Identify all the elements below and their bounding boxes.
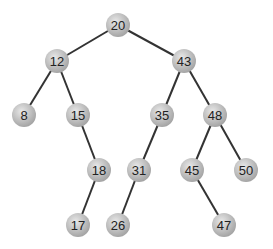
node-label: 8 <box>20 108 27 123</box>
nodes-layer: 201243815354818314550172647 <box>12 13 258 237</box>
tree-node-26: 26 <box>106 213 130 237</box>
node-label: 31 <box>132 163 146 178</box>
tree-node-15: 15 <box>66 103 90 127</box>
node-label: 18 <box>92 163 106 178</box>
tree-node-43: 43 <box>172 49 196 73</box>
tree-node-50: 50 <box>234 158 258 182</box>
node-label: 35 <box>155 108 169 123</box>
tree-node-35: 35 <box>150 103 174 127</box>
binary-tree-diagram: 201243815354818314550172647 <box>0 0 273 249</box>
node-label: 20 <box>111 18 125 33</box>
tree-node-45: 45 <box>180 158 204 182</box>
tree-node-17: 17 <box>66 213 90 237</box>
node-label: 12 <box>50 54 64 69</box>
tree-node-31: 31 <box>127 158 151 182</box>
node-label: 26 <box>111 218 125 233</box>
tree-node-12: 12 <box>45 49 69 73</box>
tree-node-48: 48 <box>203 103 227 127</box>
node-label: 17 <box>71 218 85 233</box>
tree-node-20: 20 <box>106 13 130 37</box>
node-label: 15 <box>71 108 85 123</box>
node-label: 47 <box>217 218 231 233</box>
node-label: 45 <box>185 163 199 178</box>
node-label: 48 <box>208 108 222 123</box>
node-label: 43 <box>177 54 191 69</box>
tree-node-47: 47 <box>212 213 236 237</box>
tree-node-18: 18 <box>87 158 111 182</box>
tree-node-8: 8 <box>12 103 36 127</box>
node-label: 50 <box>239 163 253 178</box>
